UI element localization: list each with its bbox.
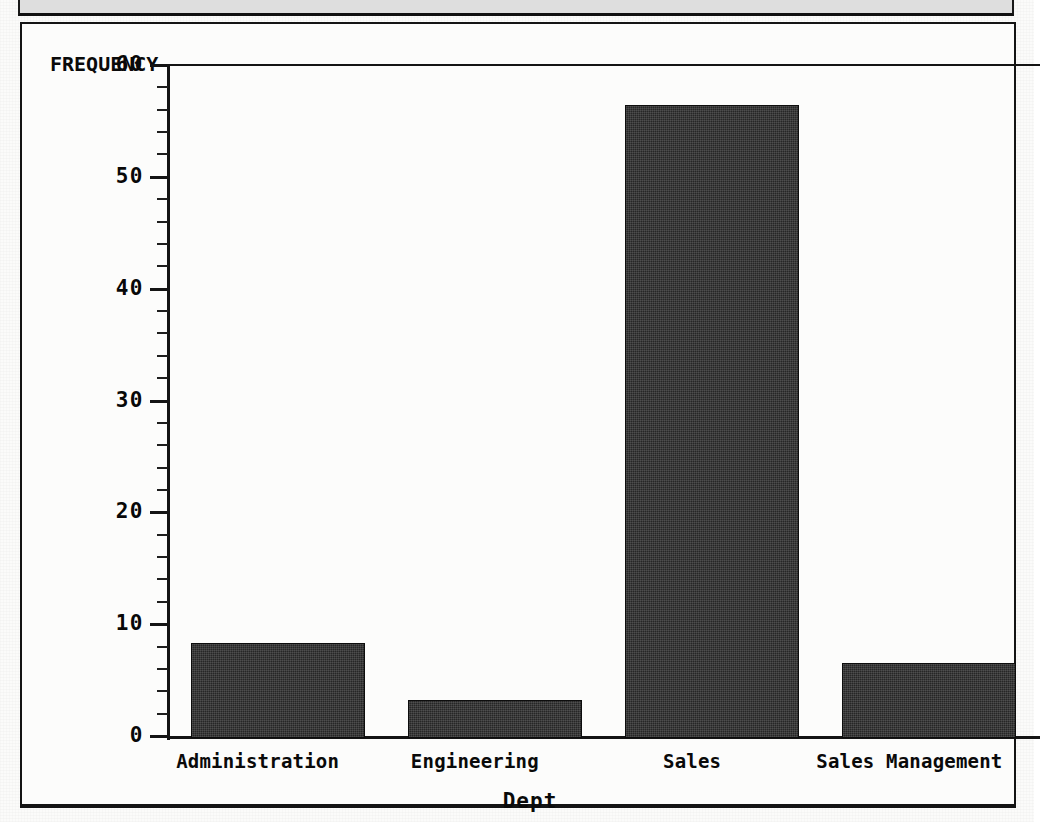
y-tick-minor bbox=[157, 690, 168, 692]
y-tick-label: 20 bbox=[34, 501, 144, 522]
y-tick-label: 50 bbox=[34, 166, 144, 187]
y-tick-minor bbox=[157, 713, 168, 715]
y-tick-label: 60 bbox=[34, 54, 144, 75]
x-axis-title: Dept bbox=[22, 789, 1038, 813]
y-tick-minor bbox=[157, 601, 168, 603]
y-tick-minor bbox=[157, 153, 168, 155]
y-tick-minor bbox=[157, 578, 168, 580]
y-tick-minor bbox=[157, 243, 168, 245]
plot-area bbox=[169, 66, 1038, 738]
bar bbox=[842, 663, 1016, 738]
y-tick-minor bbox=[157, 444, 168, 446]
y-tick-minor bbox=[157, 109, 168, 111]
y-tick-label: 0 bbox=[34, 725, 144, 746]
y-tick-major bbox=[150, 64, 168, 67]
x-category-label: Administration bbox=[149, 750, 366, 772]
y-tick-minor bbox=[157, 556, 168, 558]
y-tick-minor bbox=[157, 377, 168, 379]
x-category-label: Sales bbox=[584, 750, 801, 772]
y-tick-minor bbox=[157, 355, 168, 357]
bar bbox=[191, 643, 365, 738]
previous-figure-bottom-edge bbox=[18, 0, 1014, 16]
y-tick-major bbox=[150, 511, 168, 514]
y-tick-minor bbox=[157, 131, 168, 133]
y-tick-minor bbox=[157, 198, 168, 200]
bar bbox=[625, 105, 799, 738]
y-tick-minor bbox=[157, 467, 168, 469]
x-category-label: Engineering bbox=[366, 750, 583, 772]
y-tick-minor bbox=[157, 534, 168, 536]
y-tick-major bbox=[150, 735, 168, 738]
chart-frame: FREQUENCY 0102030405060 AdministrationEn… bbox=[20, 22, 1016, 808]
y-tick-minor bbox=[157, 221, 168, 223]
y-tick-minor bbox=[157, 489, 168, 491]
y-tick-minor bbox=[157, 422, 168, 424]
y-tick-major bbox=[150, 176, 168, 179]
y-tick-minor bbox=[157, 86, 168, 88]
y-tick-minor bbox=[157, 265, 168, 267]
y-tick-label: 40 bbox=[34, 278, 144, 299]
y-tick-minor bbox=[157, 332, 168, 334]
x-category-label: Sales Management bbox=[801, 750, 1018, 772]
y-tick-major bbox=[150, 288, 168, 291]
y-tick-major bbox=[150, 400, 168, 403]
y-tick-minor bbox=[157, 310, 168, 312]
y-tick-major bbox=[150, 623, 168, 626]
y-tick-label: 10 bbox=[34, 613, 144, 634]
bar bbox=[408, 700, 582, 738]
y-tick-minor bbox=[157, 646, 168, 648]
y-tick-minor bbox=[157, 668, 168, 670]
y-tick-label: 30 bbox=[34, 390, 144, 411]
